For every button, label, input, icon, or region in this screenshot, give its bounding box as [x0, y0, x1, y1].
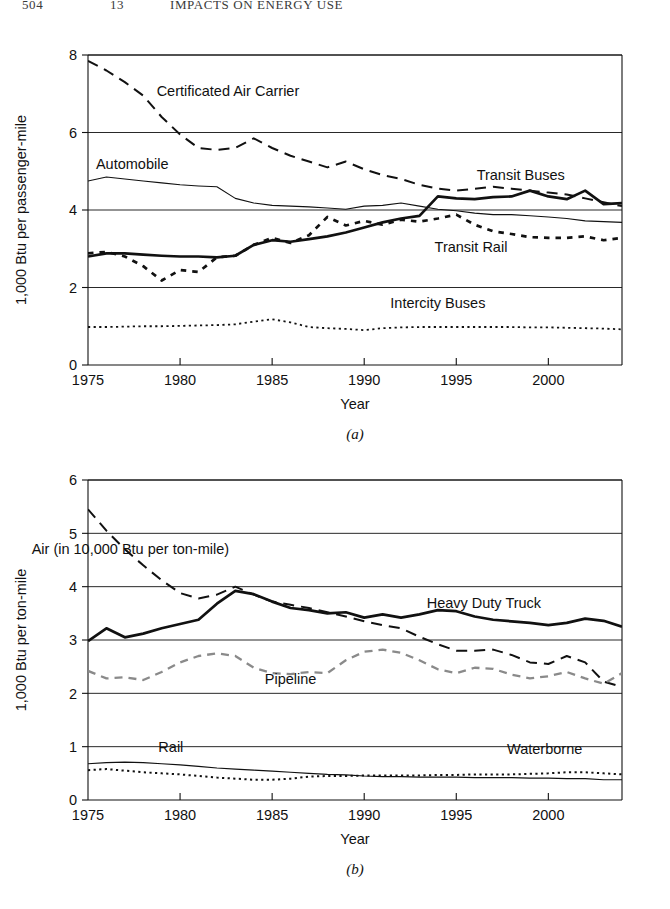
x-tick-label-1975: 1975 [72, 372, 104, 388]
series-line-automobile [88, 177, 622, 222]
page-folio: 504 [22, 0, 43, 13]
series-line-heavy-duty-truck [88, 591, 622, 641]
series-line-intercity-buses [88, 319, 622, 330]
y-tick-label-4: 4 [69, 579, 77, 595]
series-line-transit-rail [88, 215, 622, 281]
y-tick-label-6: 6 [69, 472, 77, 488]
x-tick-label-1995: 1995 [440, 372, 472, 388]
series-line-air-in-10-000-btu-per-ton-mile [88, 509, 622, 687]
series-label-intercity-buses: Intercity Buses [390, 295, 485, 311]
y-tick-label-0: 0 [69, 357, 77, 373]
chapter-title: IMPACTS ON ENERGY USE [170, 0, 343, 13]
x-tick-label-1990: 1990 [348, 372, 380, 388]
y-tick-label-5: 5 [69, 526, 77, 542]
figure-page: 504 13 IMPACTS ON ENERGY USE 02468197519… [0, 0, 670, 909]
y-tick-label-0: 0 [69, 792, 77, 808]
y-tick-label-6: 6 [69, 125, 77, 141]
panel-caption: (a) [346, 426, 364, 443]
x-axis-title: Year [340, 396, 369, 412]
chart-a: 02468197519801985199019952000Certificate… [0, 18, 670, 458]
x-tick-label-2000: 2000 [532, 807, 564, 823]
running-head: 504 13 IMPACTS ON ENERGY USE [0, 0, 670, 13]
series-line-transit-buses [88, 191, 622, 258]
series-line-pipeline [88, 650, 622, 684]
y-tick-label-2: 2 [69, 280, 77, 296]
y-axis-title: 1,000 Btu per passenger-mile [13, 115, 29, 305]
chart-b: 0123456197519801985199019952000Air (in 1… [0, 452, 670, 909]
x-tick-label-2000: 2000 [532, 372, 564, 388]
x-tick-label-1985: 1985 [256, 372, 288, 388]
series-label-pipeline: Pipeline [265, 671, 317, 687]
x-tick-label-1995: 1995 [440, 807, 472, 823]
y-tick-label-8: 8 [69, 47, 77, 63]
series-label-transit-buses: Transit Buses [477, 167, 565, 183]
x-tick-label-1990: 1990 [348, 807, 380, 823]
y-tick-label-1: 1 [69, 739, 77, 755]
figure-panel-a: 02468197519801985199019952000Certificate… [0, 18, 670, 458]
x-axis-title: Year [340, 831, 369, 847]
series-label-transit-rail: Transit Rail [435, 239, 508, 255]
panel-caption: (b) [346, 861, 364, 878]
y-axis-title: 1,000 Btu per ton-mile [13, 569, 29, 712]
x-tick-label-1980: 1980 [164, 807, 196, 823]
series-line-rail [88, 762, 622, 780]
x-tick-label-1980: 1980 [164, 372, 196, 388]
x-tick-label-1975: 1975 [72, 807, 104, 823]
y-tick-label-2: 2 [69, 686, 77, 702]
series-label-automobile: Automobile [96, 156, 169, 172]
chapter-number: 13 [110, 0, 124, 13]
y-tick-label-3: 3 [69, 632, 77, 648]
y-tick-label-4: 4 [69, 202, 77, 218]
series-label-rail: Rail [158, 739, 183, 755]
series-label-waterborne: Waterborne [507, 741, 582, 757]
series-label-heavy-duty-truck: Heavy Duty Truck [427, 595, 542, 611]
series-label-certificated-air-carrier: Certificated Air Carrier [157, 83, 300, 99]
x-tick-label-1985: 1985 [256, 807, 288, 823]
figure-panel-b: 0123456197519801985199019952000Air (in 1… [0, 452, 670, 909]
series-label-air-in-10-000-btu-per-ton-mile: Air (in 10,000 Btu per ton-mile) [32, 541, 229, 557]
series-group [88, 61, 622, 330]
